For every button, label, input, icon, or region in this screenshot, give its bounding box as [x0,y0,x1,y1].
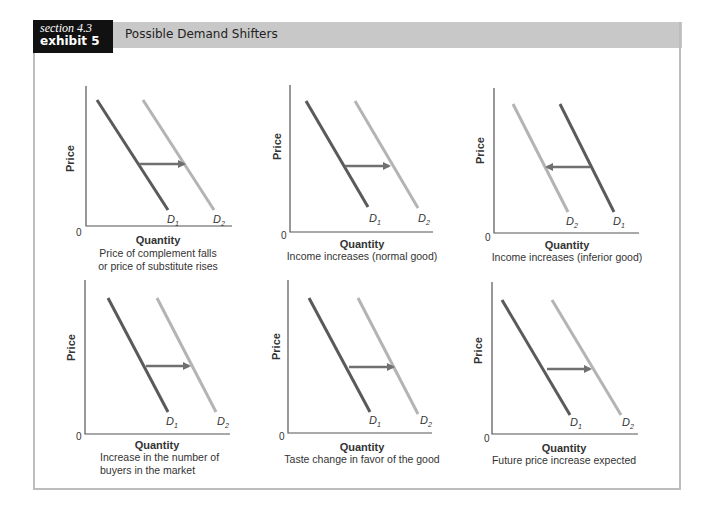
label-d1: D1 [369,414,381,428]
demand-curve-d1 [560,104,614,212]
caption-line-1: Income increases (inferior good) [492,251,643,263]
y-axis-label: Price [64,145,76,172]
label-d1: D1 [570,416,582,430]
origin-label: 0 [484,433,490,444]
label-d1: D1 [166,415,178,429]
caption-line-1: Taste change in favor of the good [284,453,439,465]
panel-taste-change: D1 D2 0 Price Quantity Taste change in f… [270,280,440,465]
label-d2: D2 [622,416,634,430]
origin-label: 0 [281,230,287,241]
label-d2: D2 [418,212,430,226]
label-d2: D2 [566,215,578,229]
label-d2: D2 [420,414,432,428]
demand-curve-d2 [513,104,568,212]
demand-curve-d2 [552,300,621,415]
label-d2: D2 [217,415,229,429]
x-axis-label: Quantity [340,441,385,453]
origin-label: 0 [279,431,285,442]
origin-label: 0 [485,232,491,243]
label-d1: D1 [369,212,381,226]
demand-shifters-diagram: D1 D2 0 Price Quantity Price of compleme… [0,0,715,514]
y-axis-label: Price [65,334,77,361]
demand-curve-d1 [108,298,168,412]
y-axis-label: Price [474,137,486,164]
caption-line-1: Increase in the number of [100,451,219,463]
panel-future-price: D1 D2 0 Price Quantity Future price incr… [472,282,638,466]
axes [85,280,230,434]
demand-curve-d2 [355,101,418,208]
demand-curve-d1 [309,298,370,412]
label-d1: D1 [613,215,625,229]
x-axis-label: Quantity [542,442,587,454]
demand-curve-d2 [358,298,418,414]
axes [492,282,638,434]
demand-curve-d1 [502,300,570,415]
origin-label: 0 [76,227,82,238]
x-axis-label: Quantity [340,238,385,250]
label-d1: D1 [167,213,179,227]
axes [290,85,433,232]
demand-curve-d1 [306,101,368,207]
demand-curve-d1 [97,100,168,210]
panel-income-inferior: D2 D1 0 Price Quantity Income increases … [474,88,642,263]
caption-line-2: buyers in the market [100,464,195,476]
origin-label: 0 [76,431,82,442]
caption-line-1: Income increases (normal good) [287,250,438,262]
y-axis-label: Price [270,333,282,360]
demand-curve-d2 [143,100,214,210]
caption-line-1: Future price increase expected [492,454,636,466]
caption-line-1: Price of complement falls [99,247,216,259]
x-axis-label: Quantity [545,239,590,251]
y-axis-label: Price [472,337,484,364]
panel-income-normal: D1 D2 0 Price Quantity Income increases … [271,85,437,262]
x-axis-label: Quantity [135,439,180,451]
x-axis-label: Quantity [136,234,181,246]
label-d2: D2 [213,213,225,227]
panel-number-of-buyers: D1 D2 0 Price Quantity Increase in the n… [65,280,230,476]
demand-curve-d2 [157,298,216,412]
panel-complement-substitute: D1 D2 0 Price Quantity Price of compleme… [64,86,232,272]
y-axis-label: Price [271,133,283,160]
caption-line-2: or price of substitute rises [98,260,218,272]
